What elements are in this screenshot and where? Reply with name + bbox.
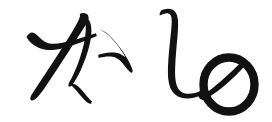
ink-svg (0, 0, 272, 122)
handwriting-canvas: かしの (0, 0, 272, 122)
